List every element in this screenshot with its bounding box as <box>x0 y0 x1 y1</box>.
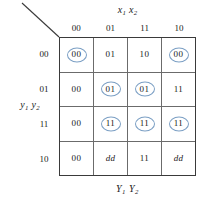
kmap-cell-value: 11 <box>140 119 149 128</box>
kmap-cell-r3-c0[interactable]: 00 <box>60 142 94 176</box>
column-header-11: 11 <box>128 21 162 35</box>
kmap-cell-r2-c3[interactable]: 11 <box>162 107 195 141</box>
kmap-cell-value: 01 <box>106 85 116 94</box>
row-header-00: 00 <box>33 37 55 72</box>
kmap-cell-value: 00 <box>72 50 82 59</box>
kmap-cell-value: 01 <box>140 85 150 94</box>
karnaugh-map-figure: x1 x2 00011110 y1 y2 00011110 0001100000… <box>0 0 204 201</box>
kmap-cell-value: 10 <box>140 50 150 59</box>
kmap-cell-value: 00 <box>72 85 82 94</box>
kmap-cell-r2-c2[interactable]: 11 <box>128 107 162 141</box>
kmap-cell-value: 00 <box>174 50 184 59</box>
kmap-cell-value: 00 <box>72 119 82 128</box>
kmap-cell-r1-c1[interactable]: 01 <box>94 73 128 107</box>
kmap-cell-value: 11 <box>174 85 183 94</box>
kmap-cell-r2-c1[interactable]: 11 <box>94 107 128 141</box>
kmap-cell-r1-c3[interactable]: 11 <box>162 73 195 107</box>
bottom-output-label: Y1 Y2 <box>59 183 196 194</box>
kmap-cell-r0-c0[interactable]: 00 <box>60 38 94 72</box>
kmap-row: 00011000 <box>60 38 195 73</box>
kmap-row: 00010111 <box>60 73 195 108</box>
kmap-cell-r3-c3[interactable]: dd <box>162 142 195 176</box>
bottom-output-label-text: Y1 Y2 <box>116 183 139 194</box>
kmap-row: 00111111 <box>60 107 195 142</box>
kmap-grid: 00011000000101110011111100dd11dd <box>59 37 196 176</box>
kmap-cell-r3-c2[interactable]: 11 <box>128 142 162 176</box>
kmap-cell-value: 11 <box>140 154 149 163</box>
kmap-cell-r1-c0[interactable]: 00 <box>60 73 94 107</box>
column-header-01: 01 <box>93 21 127 35</box>
row-header-01: 01 <box>33 72 55 107</box>
row-header-11: 11 <box>33 107 55 142</box>
kmap-cell-value: 11 <box>174 119 183 128</box>
kmap-cell-r0-c2[interactable]: 10 <box>128 38 162 72</box>
kmap-cell-value: dd <box>174 154 183 163</box>
row-header-10: 10 <box>33 141 55 176</box>
kmap-cell-r1-c2[interactable]: 01 <box>128 73 162 107</box>
kmap-cell-value: 00 <box>72 154 82 163</box>
row-header-column: 00011110 <box>33 37 55 176</box>
kmap-cell-r3-c1[interactable]: dd <box>94 142 128 176</box>
top-axis-label: x1 x2 <box>59 4 196 15</box>
top-axis-label-text: x1 x2 <box>118 4 138 15</box>
kmap-cell-value: 11 <box>106 119 115 128</box>
kmap-cell-r0-c3[interactable]: 00 <box>162 38 195 72</box>
kmap-cell-value: 01 <box>106 50 116 59</box>
column-header-00: 00 <box>59 21 93 35</box>
kmap-cell-r2-c0[interactable]: 00 <box>60 107 94 141</box>
kmap-cell-r0-c1[interactable]: 01 <box>94 38 128 72</box>
kmap-cell-value: dd <box>106 154 115 163</box>
column-header-row: 00011110 <box>59 21 196 35</box>
kmap-row: 00dd11dd <box>60 142 195 176</box>
column-header-10: 10 <box>162 21 196 35</box>
